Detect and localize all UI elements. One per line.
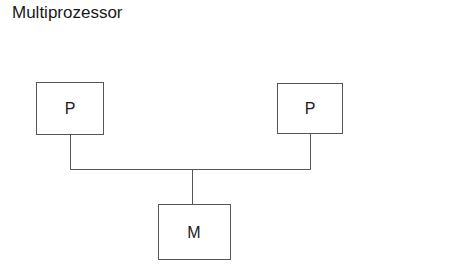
- diagram-canvas: P P M: [0, 0, 476, 275]
- processor-label-2: P: [305, 100, 316, 117]
- memory-node: M: [159, 205, 231, 260]
- processor-node-1: P: [37, 83, 104, 135]
- processor-node-2: P: [278, 84, 343, 134]
- memory-label: M: [187, 224, 200, 241]
- processor-label-1: P: [65, 100, 76, 117]
